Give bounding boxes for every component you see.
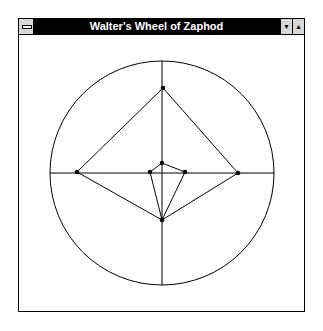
vertex-point [148, 170, 153, 175]
wheel-diagram [0, 0, 323, 331]
vertex-point [75, 170, 80, 175]
drawing-area [19, 35, 304, 311]
vertex-point [236, 171, 241, 176]
inner-kite [150, 163, 185, 220]
vertex-point [160, 218, 165, 223]
app-window: Walter's Wheel of Zaphod ▼ ▲ [18, 18, 305, 312]
vertex-point [161, 86, 166, 91]
vertex-point [183, 170, 188, 175]
vertex-point [160, 161, 165, 166]
